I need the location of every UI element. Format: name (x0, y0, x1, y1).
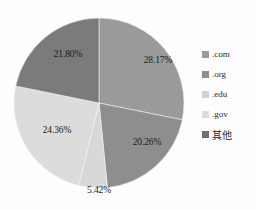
legend-item-other[interactable]: 其他 (202, 124, 256, 144)
legend-swatch-icon (202, 111, 209, 118)
pie-slices (14, 18, 184, 188)
legend: .com .org .edu .gov 其他 (202, 44, 256, 144)
legend-swatch-icon (202, 71, 209, 78)
legend-item-com[interactable]: .com (202, 44, 256, 64)
pie-plot-area: 28.17% 20.26% 5.42% 24.36% 21.80% (0, 0, 196, 210)
pie-svg (0, 0, 196, 210)
slice-label-other: 21.80% (54, 49, 83, 59)
legend-item-edu[interactable]: .edu (202, 84, 256, 104)
legend-label: .edu (212, 89, 227, 99)
legend-item-gov[interactable]: .gov (202, 104, 256, 124)
slice-label-org: 20.26% (133, 137, 162, 147)
pie-chart: 28.17% 20.26% 5.42% 24.36% 21.80% .com .… (0, 0, 256, 210)
slice-label-gov: 24.36% (43, 125, 72, 135)
legend-label: .org (212, 69, 226, 79)
legend-swatch-icon (202, 131, 209, 138)
slice-label-edu: 5.42% (87, 185, 111, 195)
slice-label-com: 28.17% (144, 55, 173, 65)
legend-label: .gov (212, 109, 228, 119)
legend-swatch-icon (202, 51, 209, 58)
legend-item-org[interactable]: .org (202, 64, 256, 84)
legend-swatch-icon (202, 91, 209, 98)
pie-slice[interactable] (99, 18, 184, 120)
legend-label: .com (212, 49, 230, 59)
legend-label: 其他 (212, 127, 232, 142)
